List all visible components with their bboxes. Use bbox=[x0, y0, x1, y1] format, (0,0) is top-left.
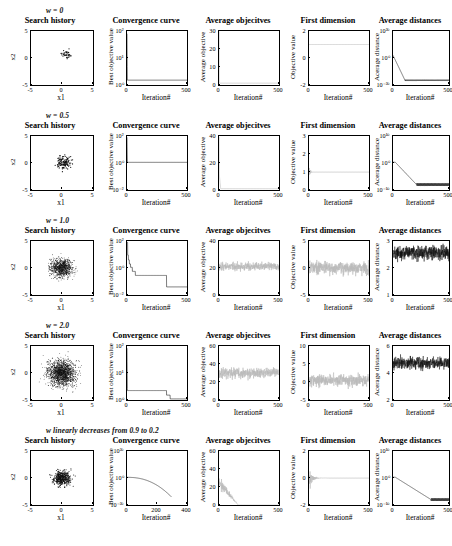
y-axis-label: Objective value bbox=[289, 239, 297, 295]
plot-area bbox=[308, 135, 370, 191]
x-tick-mark bbox=[186, 82, 187, 84]
x-tick-mark bbox=[448, 292, 449, 294]
y-axis-label: Average objective bbox=[199, 134, 207, 190]
x-tick-label: 0 bbox=[117, 86, 135, 93]
x-tick-label: 0 bbox=[52, 296, 70, 303]
figure-row: w linearly decreases from 0.9 to 0.2Sear… bbox=[0, 424, 452, 529]
x-tick-label: 0 bbox=[209, 86, 227, 93]
y-tick-mark bbox=[308, 135, 310, 136]
panel-title: Average objecitves bbox=[194, 226, 282, 235]
y-tick-mark bbox=[30, 57, 32, 58]
x-tick-mark bbox=[278, 187, 279, 189]
y-tick-mark bbox=[218, 468, 220, 469]
x-tick-mark bbox=[448, 82, 449, 84]
plot-area bbox=[30, 135, 94, 191]
panel-title: Search history bbox=[4, 121, 96, 130]
plot-area bbox=[30, 30, 94, 86]
plot-area bbox=[308, 30, 370, 86]
x-tick-mark bbox=[92, 187, 93, 189]
panel-title: First dimension bbox=[284, 121, 372, 130]
x-axis-label: Iteration# bbox=[212, 303, 284, 312]
y-axis-label: Objective value bbox=[289, 344, 297, 400]
x-tick-mark bbox=[278, 82, 279, 84]
x-tick-mark bbox=[278, 397, 279, 399]
x-axis-label: Iteration# bbox=[212, 198, 284, 207]
x-tick-mark bbox=[392, 187, 393, 189]
x-tick-label: 500 bbox=[177, 401, 195, 408]
x-axis-label: Iteration# bbox=[386, 408, 452, 417]
plot-area bbox=[30, 240, 94, 296]
y-tick-mark bbox=[218, 162, 220, 163]
figure-row: w = 2.0Search history50-5-505x1x2Converg… bbox=[0, 319, 452, 424]
x-tick-mark bbox=[61, 502, 62, 504]
x-tick-mark bbox=[278, 292, 279, 294]
x-tick-mark bbox=[392, 397, 393, 399]
x-tick-mark bbox=[126, 292, 127, 294]
plot-panel-avg_obj: Average objecitves60402000500Iteration#A… bbox=[194, 436, 282, 528]
x-axis-label: Iteration# bbox=[212, 513, 284, 522]
y-axis-label: Best objective value bbox=[107, 239, 115, 295]
y-tick-mark bbox=[392, 135, 394, 136]
y-tick-mark bbox=[392, 345, 394, 346]
x-tick-mark bbox=[392, 82, 393, 84]
x-tick-mark bbox=[218, 502, 219, 504]
figure-row: w = 0.5Search history50-5-505x1x2Converg… bbox=[0, 109, 452, 214]
x-tick-label: 0 bbox=[299, 191, 317, 198]
x-tick-mark bbox=[308, 397, 309, 399]
y-tick-mark bbox=[308, 363, 310, 364]
y-axis-label: Best objective value bbox=[107, 29, 115, 85]
y-tick-mark bbox=[126, 450, 128, 451]
x-tick-mark bbox=[278, 502, 279, 504]
plot-panel-search: Search history50-5-505x1x2 bbox=[4, 226, 96, 318]
y-tick-mark bbox=[392, 162, 394, 163]
x-tick-label: 0 bbox=[299, 506, 317, 513]
plot-panel-convergence: Convergence curve10²10¹10⁰0500Iteration#… bbox=[102, 16, 190, 108]
x-tick-label: 0 bbox=[383, 191, 401, 198]
y-tick-mark bbox=[308, 240, 310, 241]
x-tick-label: 500 bbox=[439, 401, 452, 408]
plot-panel-first_dim: First dimension20-20500Iteration#Objecti… bbox=[284, 436, 372, 528]
x-axis-label: Iteration# bbox=[386, 198, 452, 207]
x-tick-mark bbox=[30, 502, 31, 504]
x-tick-mark bbox=[308, 502, 309, 504]
plot-panel-first_dim: First dimension1050-50500Iteration#Objec… bbox=[284, 331, 372, 423]
plot-panel-avg_dist: Average distances10¹⁰10⁰10⁻¹⁰0500Iterati… bbox=[368, 121, 452, 213]
y-tick-mark bbox=[126, 162, 128, 163]
panel-title: Average distances bbox=[368, 436, 452, 445]
plot-panel-convergence: Convergence curve10²10¹10⁰0500Iteration#… bbox=[102, 331, 190, 423]
plot-area bbox=[308, 240, 370, 296]
x-tick-mark bbox=[218, 82, 219, 84]
x-tick-label: 0 bbox=[383, 296, 401, 303]
plot-area bbox=[218, 240, 280, 296]
x-tick-label: 0 bbox=[383, 401, 401, 408]
y-axis-label: x2 bbox=[9, 239, 17, 295]
y-tick-mark bbox=[218, 30, 220, 31]
x-tick-label: -5 bbox=[21, 506, 39, 513]
y-tick-mark bbox=[308, 381, 310, 382]
y-tick-mark bbox=[30, 450, 32, 451]
panel-title: Average objecitves bbox=[194, 121, 282, 130]
y-tick-mark bbox=[30, 477, 32, 478]
plot-area bbox=[126, 30, 188, 86]
panel-title: Average distances bbox=[368, 16, 452, 25]
row-parameter-label: w = 0 bbox=[46, 6, 63, 15]
x-tick-label: 0 bbox=[52, 401, 70, 408]
y-tick-mark bbox=[308, 267, 310, 268]
multi-panel-figure: w = 0Search history50-5-505x1x2Convergen… bbox=[0, 0, 452, 546]
panel-title: Convergence curve bbox=[102, 436, 190, 445]
row-parameter-label: w = 2.0 bbox=[46, 321, 69, 330]
y-tick-mark bbox=[392, 30, 394, 31]
x-tick-mark bbox=[186, 292, 187, 294]
plot-panel-convergence: Convergence curve10²⁰10⁰10⁻²⁰0200400Iter… bbox=[102, 436, 190, 528]
y-tick-mark bbox=[126, 477, 128, 478]
x-axis-label: Iteration# bbox=[212, 408, 284, 417]
y-tick-mark bbox=[392, 477, 394, 478]
plot-area bbox=[392, 240, 450, 296]
plot-panel-convergence: Convergence curve10²10⁰10⁻²0500Iteration… bbox=[102, 121, 190, 213]
y-axis-label: x2 bbox=[9, 134, 17, 190]
x-tick-label: 0 bbox=[117, 401, 135, 408]
x-tick-label: 500 bbox=[177, 86, 195, 93]
x-axis-label: Iteration# bbox=[120, 93, 192, 102]
y-axis-label: x2 bbox=[9, 344, 17, 400]
row-parameter-label: w linearly decreases from 0.9 to 0.2 bbox=[46, 426, 159, 435]
